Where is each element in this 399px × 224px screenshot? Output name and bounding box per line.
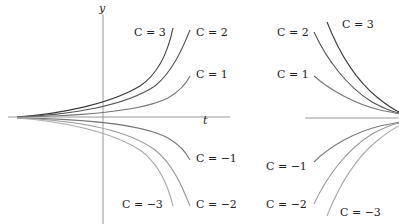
exponential-solution-families-figure: y t C = 3 C = 2 C = 1 C = −1 C = −2 C = … (0, 0, 399, 224)
left-label-cm3: C = −3 (122, 198, 163, 211)
right-curve-cm2 (314, 123, 399, 204)
left-panel: y t C = 3 C = 2 C = 1 C = −1 C = −2 C = … (8, 2, 237, 224)
right-panel: C = 3 C = 2 C = 1 C = −1 C = −2 C = −3 (266, 18, 399, 219)
right-curve-c2 (314, 32, 399, 113)
left-label-c3: C = 3 (134, 26, 166, 39)
right-label-cm3: C = −3 (340, 206, 381, 219)
right-curve-cm1 (314, 122, 399, 162)
left-t-axis-label: t (203, 114, 208, 127)
right-label-c3: C = 3 (342, 18, 374, 31)
right-label-c2: C = 2 (277, 26, 309, 39)
left-label-cm1: C = −1 (196, 152, 237, 165)
left-label-cm2: C = −2 (196, 198, 237, 211)
left-label-c1: C = 1 (196, 68, 228, 81)
right-label-cm2: C = −2 (266, 198, 307, 211)
right-label-cm1: C = −1 (266, 160, 307, 173)
left-curve-c3 (17, 28, 173, 117)
right-label-c1: C = 1 (277, 68, 309, 81)
right-curve-c3 (327, 22, 399, 112)
left-y-axis-label: y (98, 2, 106, 15)
left-label-c2: C = 2 (196, 26, 228, 39)
